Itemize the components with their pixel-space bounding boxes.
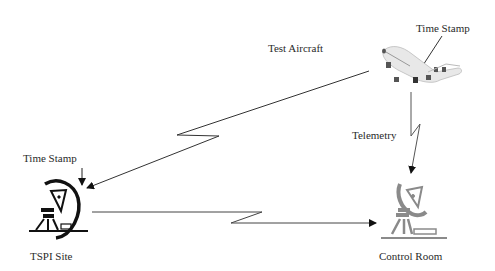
telemetry-label: Telemetry: [352, 129, 396, 141]
tspi-to-control-link: [92, 212, 376, 223]
control-room-satellite-dish-icon: [381, 184, 447, 238]
tspi-site-label: TSPI Site: [30, 250, 72, 262]
airplane-icon: [382, 47, 462, 83]
tspi-satellite-dish-icon: [29, 181, 88, 238]
diagram-canvas: [0, 0, 495, 271]
telemetry-link: [411, 92, 420, 173]
aircraft-to-tspi-link: [87, 71, 369, 188]
control-room-label: Control Room: [379, 250, 442, 262]
test-aircraft-label: Test Aircraft: [268, 42, 323, 54]
aircraft-timestamp-label: Time Stamp: [416, 22, 470, 34]
tspi-timestamp-label: Time Stamp: [23, 152, 77, 164]
